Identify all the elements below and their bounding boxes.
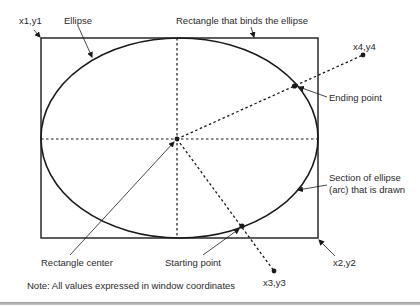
label-arc-section-line2: (arc) that is drawn xyxy=(329,184,405,195)
ellipse xyxy=(41,38,318,238)
bottom-rule xyxy=(0,302,420,305)
label-point4: x4,y4 xyxy=(353,41,376,52)
arrow-rectangle xyxy=(251,27,254,37)
label-corner2: x2,y2 xyxy=(333,257,356,268)
label-ellipse: Ellipse xyxy=(64,15,92,26)
arrow-arc-section xyxy=(298,185,327,190)
label-arc-section-line1: Section of ellipse xyxy=(329,172,401,183)
label-rectangle: Rectangle that binds the ellipse xyxy=(176,15,308,26)
ending-point-dot xyxy=(292,83,297,88)
bounding-rectangle xyxy=(41,38,318,238)
center-point xyxy=(175,137,180,142)
label-corner1: x1,y1 xyxy=(19,15,42,26)
arrow-corner1 xyxy=(34,30,40,37)
radial-line-to-x3y3 xyxy=(177,139,274,271)
note-text: Note: All values expressed in window coo… xyxy=(27,280,235,291)
label-rectangle-center: Rectangle center xyxy=(41,257,113,268)
arrow-ellipse xyxy=(78,26,92,57)
label-ending-point: Ending point xyxy=(329,92,382,103)
label-point3: x3,y3 xyxy=(263,277,286,288)
arrow-corner2 xyxy=(319,240,335,256)
starting-point-dot xyxy=(239,223,244,228)
point-x4y4 xyxy=(361,53,366,58)
label-starting-point: Starting point xyxy=(165,257,221,268)
point-x3y3 xyxy=(272,269,277,274)
